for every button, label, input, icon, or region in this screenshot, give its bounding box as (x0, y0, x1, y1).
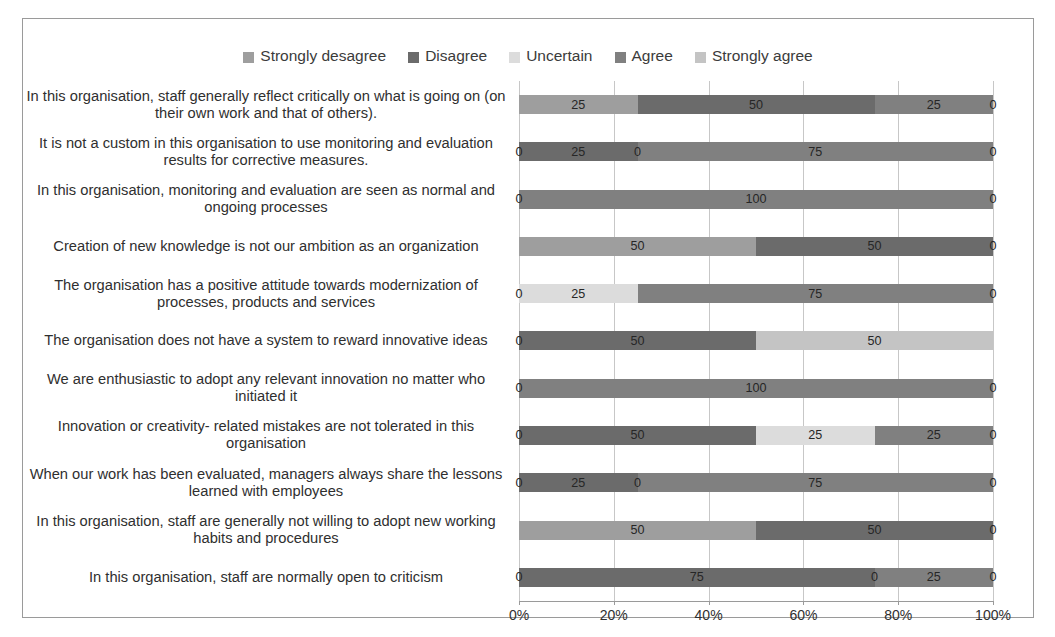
bar-track: 01000 (519, 176, 993, 223)
data-label: 25 (571, 287, 585, 301)
bar-segment[interactable]: 100 (519, 190, 993, 209)
chart-row: Innovation or creativity- related mistak… (23, 412, 1033, 459)
stacked-bar[interactable]: 50500 (519, 237, 993, 256)
bar-track: 50500 (519, 223, 993, 270)
chart-frame: Strongly desagreeDisagreeUncertainAgreeS… (22, 18, 1034, 618)
chart-row: The organisation does not have a system … (23, 317, 1033, 364)
x-tick-mark (519, 601, 520, 605)
bar-segment[interactable]: 50 (756, 331, 993, 350)
category-label: Innovation or creativity- related mistak… (23, 418, 519, 452)
data-label: 25 (927, 98, 941, 112)
x-axis: 0%20%40%60%80%100% (519, 601, 993, 621)
bar-segment[interactable]: 25 (875, 426, 994, 445)
chart-row: When our work has been evaluated, manage… (23, 459, 1033, 506)
x-tick-mark (803, 601, 804, 605)
legend-item[interactable]: Strongly agree (695, 47, 813, 65)
bar-segment[interactable]: 75 (638, 284, 994, 303)
category-label: We are enthusiastic to adopt any relevan… (23, 371, 519, 405)
data-label: 25 (927, 428, 941, 442)
chart-legend: Strongly desagreeDisagreeUncertainAgreeS… (23, 47, 1033, 65)
x-tick-label: 60% (789, 607, 817, 623)
data-label: 50 (867, 334, 881, 348)
chart-row: It is not a custom in this organisation … (23, 128, 1033, 175)
plot-area: In this organisation, staff generally re… (23, 81, 1033, 601)
stacked-bar[interactable]: 01000 (519, 190, 993, 209)
bar-segment[interactable]: 75 (638, 473, 994, 492)
data-label: 0 (515, 334, 522, 348)
bar-segment[interactable]: 25 (519, 284, 638, 303)
stacked-bar[interactable]: 01000 (519, 379, 993, 398)
legend-item[interactable]: Strongly desagree (243, 47, 386, 65)
stacked-bar[interactable]: 2550250 (519, 95, 993, 114)
legend-label: Strongly desagree (260, 47, 386, 65)
stacked-bar[interactable]: 025750 (519, 284, 993, 303)
x-tick-mark (614, 601, 615, 605)
bar-segment[interactable]: 25 (519, 95, 638, 114)
x-tick-mark (993, 601, 994, 605)
data-label: 0 (515, 145, 522, 159)
bar-segment[interactable]: 25 (875, 95, 994, 114)
bar-segment[interactable]: 50 (519, 426, 756, 445)
bar-segment[interactable]: 25 (519, 142, 638, 161)
bar-segment[interactable]: 50 (638, 95, 875, 114)
data-label: 0 (989, 145, 996, 159)
category-label: In this organisation, monitoring and eva… (23, 182, 519, 216)
x-tick-mark (898, 601, 899, 605)
bar-segment[interactable]: 100 (519, 379, 993, 398)
bar-zone: 05025250 (519, 412, 1033, 459)
data-label: 0 (871, 570, 878, 584)
data-label: 0 (989, 381, 996, 395)
bar-segment[interactable]: 50 (519, 331, 756, 350)
category-label: It is not a custom in this organisation … (23, 135, 519, 169)
legend-item[interactable]: Disagree (408, 47, 487, 65)
legend-item[interactable]: Agree (615, 47, 673, 65)
data-label: 0 (989, 428, 996, 442)
legend-label: Uncertain (526, 47, 592, 65)
chart-row: In this organisation, staff generally re… (23, 81, 1033, 128)
bar-segment[interactable]: 75 (519, 568, 875, 587)
legend-swatch-icon (695, 52, 706, 63)
bar-track: 05050 (519, 317, 993, 364)
chart-row: In this organisation, staff are normally… (23, 554, 1033, 601)
stacked-bar[interactable]: 0750250 (519, 568, 993, 587)
data-label: 25 (571, 145, 585, 159)
data-label: 50 (867, 239, 881, 253)
bar-segment[interactable]: 25 (756, 426, 875, 445)
x-axis-line (519, 601, 993, 602)
bar-segment[interactable]: 25 (875, 568, 994, 587)
bar-segment[interactable]: 50 (519, 237, 756, 256)
stacked-bar[interactable]: 50500 (519, 521, 993, 540)
category-label: In this organisation, staff are generall… (23, 513, 519, 547)
data-label: 0 (515, 428, 522, 442)
data-label: 75 (808, 287, 822, 301)
bar-segment[interactable]: 75 (638, 142, 994, 161)
bar-zone: 05050 (519, 317, 1033, 364)
bar-zone: 0750250 (519, 554, 1033, 601)
stacked-bar[interactable]: 05025250 (519, 426, 993, 445)
bar-track: 01000 (519, 365, 993, 412)
stacked-bar[interactable]: 0250750 (519, 142, 993, 161)
data-label: 0 (515, 381, 522, 395)
category-label: When our work has been evaluated, manage… (23, 466, 519, 500)
data-label: 25 (571, 476, 585, 490)
x-tick-label: 20% (600, 607, 628, 623)
bar-segment[interactable]: 50 (756, 237, 993, 256)
x-tick-label: 80% (884, 607, 912, 623)
bar-track: 0750250 (519, 554, 993, 601)
bar-track: 0250750 (519, 128, 993, 175)
stacked-bar[interactable]: 0250750 (519, 473, 993, 492)
bar-track: 50500 (519, 506, 993, 553)
chart-row: We are enthusiastic to adopt any relevan… (23, 365, 1033, 412)
bar-zone: 01000 (519, 176, 1033, 223)
data-label: 25 (571, 98, 585, 112)
legend-swatch-icon (243, 52, 254, 63)
data-label: 0 (989, 287, 996, 301)
bar-segment[interactable]: 50 (756, 521, 993, 540)
bar-segment[interactable]: 25 (519, 473, 638, 492)
bar-zone: 0250750 (519, 459, 1033, 506)
data-label: 0 (989, 98, 996, 112)
stacked-bar[interactable]: 05050 (519, 331, 993, 350)
data-label: 0 (989, 523, 996, 537)
legend-item[interactable]: Uncertain (509, 47, 592, 65)
bar-segment[interactable]: 50 (519, 521, 756, 540)
